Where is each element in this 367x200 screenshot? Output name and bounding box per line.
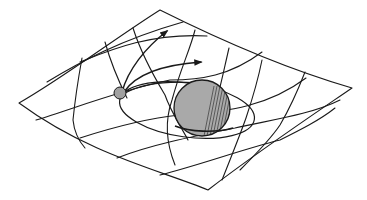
grid-line: [240, 72, 305, 170]
grid-line: [80, 36, 207, 62]
diagram-canvas: [0, 0, 367, 200]
grid-line: [73, 58, 85, 148]
large-sphere: [174, 80, 235, 136]
small-sphere: [114, 87, 126, 99]
spacetime-diagram: [0, 0, 367, 200]
